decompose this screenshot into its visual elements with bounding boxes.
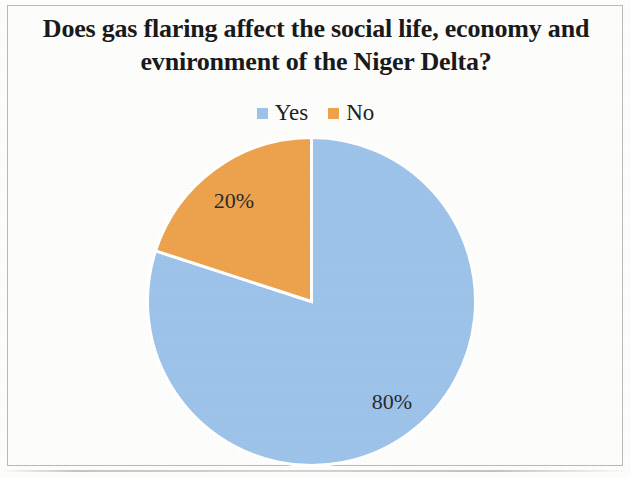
legend-label-no: No xyxy=(346,101,374,124)
pie-slice-no[interactable] xyxy=(156,138,312,302)
chart-title-line-2: evnironment of the Niger Delta? xyxy=(18,45,614,78)
pie-data-label-no: 20% xyxy=(214,188,254,213)
chart-title: Does gas flaring affect the social life,… xyxy=(18,12,614,78)
chart-title-line-1: Does gas flaring affect the social life,… xyxy=(18,12,614,45)
pie-data-label-yes: 80% xyxy=(372,389,412,414)
pie-slice-yes[interactable] xyxy=(148,138,476,466)
chart-legend: Yes No xyxy=(0,101,631,124)
legend-item-yes[interactable]: Yes xyxy=(257,101,308,124)
legend-item-no[interactable]: No xyxy=(328,101,374,124)
pie-slices xyxy=(148,138,476,466)
legend-swatch-yes-icon xyxy=(257,108,268,119)
chart-figure: Does gas flaring affect the social life,… xyxy=(0,0,631,477)
legend-label-yes: Yes xyxy=(275,101,308,124)
legend-swatch-no-icon xyxy=(328,108,339,119)
figure-border-smudge xyxy=(0,470,631,472)
